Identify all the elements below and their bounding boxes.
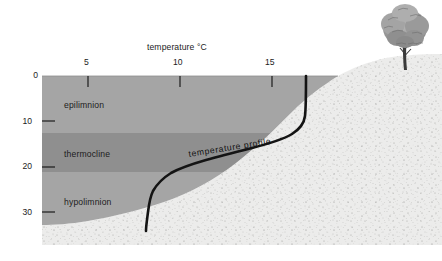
x-tick-label-5: 5 [84,58,89,67]
x-axis-title: temperature °C [147,43,207,52]
tree-foliage [381,4,429,48]
layer-label-hypolimnion: hypolimnion [64,198,112,207]
x-tick-label-10: 10 [173,58,183,67]
layer-label-epilimnion: epilimnion [64,101,104,110]
y-tick-label-20: 20 [16,162,32,171]
x-tick-label-15: 15 [265,58,275,67]
y-tick-label-0: 0 [22,71,38,80]
y-tick-label-10: 10 [16,117,32,126]
layer-label-thermocline: thermocline [64,150,110,159]
lake-thermal-stratification-figure: temperature °C 5 10 15 depth in meters 0… [0,0,442,261]
figure-canvas [0,0,442,261]
y-tick-label-30: 30 [16,208,32,217]
